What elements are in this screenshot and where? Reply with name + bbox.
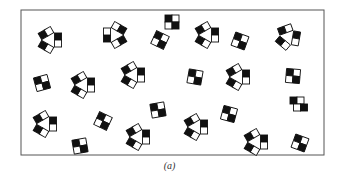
domino-figure: [0, 0, 339, 178]
domino-cluster-pair-v: [290, 97, 308, 111]
domino: [88, 78, 95, 92]
domino-cluster-triangle: [33, 110, 56, 137]
domino: [184, 113, 200, 126]
domino: [71, 71, 87, 84]
domino: [226, 63, 242, 76]
domino: [38, 40, 54, 53]
domino: [201, 120, 208, 134]
domino: [244, 128, 260, 141]
domino-cluster-triangle: [184, 113, 207, 140]
domino-cluster-block: [72, 138, 88, 154]
figure-caption: (a): [0, 160, 339, 171]
domino: [290, 97, 304, 104]
domino-cluster-triangle: [126, 123, 149, 150]
domino: [261, 135, 268, 149]
domino: [165, 15, 179, 22]
domino-cluster-block: [151, 31, 170, 50]
domino-cluster-block: [94, 112, 113, 131]
domino-clusters: [33, 15, 309, 156]
domino: [138, 68, 145, 82]
domino-cluster-triangle: [71, 71, 94, 98]
domino: [143, 130, 150, 144]
domino: [195, 21, 211, 34]
domino: [121, 75, 137, 88]
domino-cluster-block: [285, 68, 300, 83]
domino: [243, 70, 250, 84]
domino-cluster-triangle: [244, 128, 267, 155]
domino: [165, 22, 179, 29]
domino-cluster-triangle: [103, 21, 126, 48]
domino-cluster-triangle: [38, 26, 61, 53]
domino: [38, 26, 54, 39]
domino: [111, 35, 127, 48]
domino: [212, 28, 219, 42]
domino: [195, 35, 211, 48]
domino-cluster-triangle: [121, 61, 144, 88]
domino-cluster-block: [231, 32, 249, 50]
domino: [50, 117, 57, 131]
domino-cluster-block: [150, 102, 166, 118]
domino-cluster-block: [187, 69, 203, 85]
domino-cluster-triangle: [195, 21, 218, 48]
domino: [55, 33, 62, 47]
domino: [126, 123, 142, 136]
domino: [71, 85, 87, 98]
domino: [111, 21, 127, 34]
domino: [291, 31, 300, 46]
domino: [126, 137, 142, 150]
domino: [103, 28, 110, 42]
domino: [121, 61, 137, 74]
domino-cluster-block: [291, 134, 309, 152]
domino: [33, 110, 49, 123]
domino: [226, 77, 242, 90]
domino-cluster-block: [165, 15, 179, 29]
domino: [244, 142, 260, 155]
domino: [277, 24, 293, 35]
domino: [294, 104, 308, 111]
domino-cluster-triangle: [274, 22, 302, 53]
domino: [285, 75, 300, 83]
domino: [275, 36, 290, 50]
domino-cluster-block: [33, 74, 50, 91]
domino-cluster-block: [220, 105, 237, 122]
domino: [33, 124, 49, 137]
domino-cluster-triangle: [226, 63, 249, 90]
domino: [184, 127, 200, 140]
